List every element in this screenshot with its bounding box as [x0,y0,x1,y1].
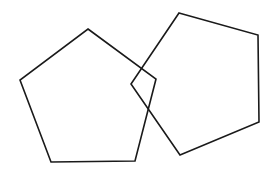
diagram-canvas [0,0,276,175]
right-pentagon [131,13,259,155]
pentagons-svg [0,0,276,175]
left-pentagon [20,29,156,162]
